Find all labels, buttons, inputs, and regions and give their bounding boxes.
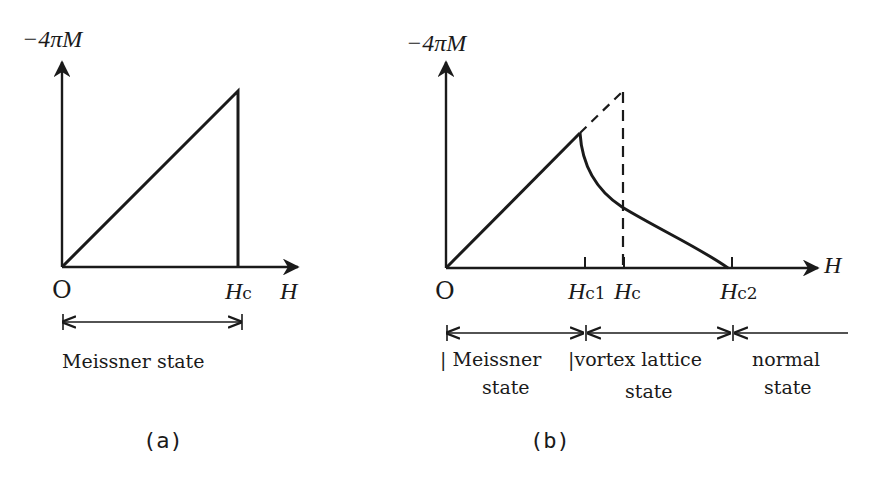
region-line1: |vortex lattice <box>568 348 738 370</box>
tick-main: H <box>614 278 631 304</box>
panel-a-tick-hc: Hc <box>225 278 252 305</box>
panel-a-region-bracket <box>63 314 242 330</box>
tick-main: H <box>568 278 585 304</box>
panel-a-y-axis-label: −4πM <box>22 26 82 53</box>
panel-b-region-vortex: |vortex lattice state <box>568 348 738 402</box>
superconductor-magnetization-diagram: −4πM O Hc H Meissner state (a) −4πM O Hc… <box>0 0 872 488</box>
panel-a-curve <box>62 91 238 267</box>
panel-a-caption: (a) <box>143 428 183 453</box>
panel-b-y-axis-label: −4πM <box>406 30 466 57</box>
tick-sub: c1 <box>585 283 605 303</box>
panel-b-tick-hc2: Hc2 <box>720 278 758 305</box>
tick-sub: c <box>242 283 252 303</box>
panel-b-x-axis-label: H <box>824 252 841 279</box>
panel-b-tick-hc1: Hc1 <box>568 278 606 305</box>
tick-main: H <box>225 278 242 304</box>
tick-main: H <box>720 278 737 304</box>
panel-b-region-brackets <box>447 325 848 341</box>
panel-b-caption: (b) <box>530 428 570 453</box>
panel-b-tick-hc: Hc <box>614 278 641 305</box>
panel-a-x-axis-label: H <box>280 278 297 305</box>
panel-b-axes <box>446 62 818 268</box>
tick-sub: c2 <box>737 283 757 303</box>
diagram-lines <box>0 0 872 488</box>
region-line2: state <box>752 376 852 398</box>
panel-a-region-meissner: Meissner state <box>62 350 204 372</box>
panel-b-curves <box>446 92 728 268</box>
panel-a-origin-label: O <box>52 276 72 304</box>
panel-b-region-normal: normal state <box>752 348 852 398</box>
panel-a-axes <box>62 62 298 267</box>
tick-sub: c <box>631 283 641 303</box>
region-line2: state <box>568 380 738 402</box>
panel-b-origin-label: O <box>435 277 455 305</box>
region-line1: normal <box>752 348 852 370</box>
